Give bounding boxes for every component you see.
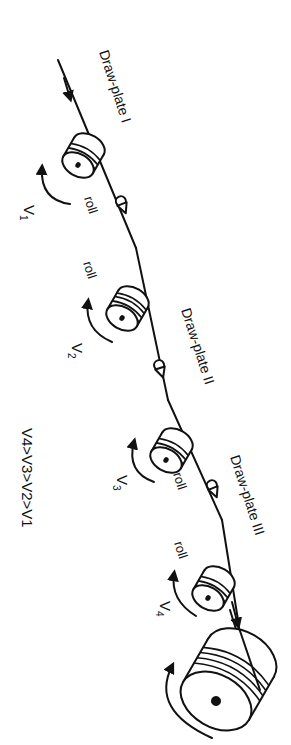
draw-plate-3-label: Draw-plate III [227, 453, 268, 537]
roll-3 [146, 423, 197, 478]
speed-v4-label: V 4 [154, 601, 174, 617]
speed-relation-label: V4>V3>V2>V1 [19, 428, 36, 528]
svg-text:2: 2 [66, 353, 77, 359]
svg-text:V: V [114, 475, 131, 485]
speed-v1-label: V 1 [18, 205, 38, 221]
svg-text:V: V [157, 601, 174, 611]
wire-drawing-diagram: Draw-plate I Draw-plate II Draw-plate II… [0, 0, 291, 745]
draw-plate-2-label: Draw-plate II [178, 306, 218, 386]
svg-text:1: 1 [18, 215, 29, 221]
draw-plate-1-die-icon [114, 195, 130, 215]
roll-4 [188, 561, 239, 616]
svg-text:V: V [21, 205, 38, 215]
rotation-arrow-3-icon [132, 442, 154, 482]
svg-text:V: V [69, 343, 86, 353]
svg-text:3: 3 [111, 485, 122, 491]
svg-text:4: 4 [154, 611, 165, 617]
roll-3-label: roll [170, 470, 190, 491]
draw-plate-3-die-icon [205, 479, 221, 499]
roll-1-label: roll [81, 194, 101, 215]
rotation-arrow-1-icon [42, 168, 70, 204]
roll-4-label: roll [171, 539, 191, 560]
speed-v3-label: V 3 [111, 475, 131, 491]
draw-plate-1-label: Draw-plate I [96, 48, 135, 125]
roll-2-label: roll [80, 259, 100, 280]
draw-plate-2-die-icon [153, 359, 168, 379]
roll-1 [58, 128, 109, 183]
speed-v2-label: V 2 [66, 343, 86, 359]
